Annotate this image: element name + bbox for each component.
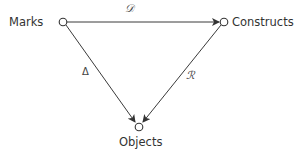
node-label-constructs: Constructs [232, 16, 294, 28]
edge-label-delta: Δ [82, 66, 89, 77]
edge-label-r: ℛ [186, 70, 195, 81]
edge-marks-objects [66, 25, 135, 122]
node-marks-circle [59, 18, 67, 26]
edge-label-d: 𝒟 [125, 3, 134, 14]
node-objects-circle [135, 123, 143, 131]
edge-constructs-objects [143, 25, 221, 122]
node-label-objects: Objects [119, 136, 162, 148]
node-constructs-circle [220, 18, 228, 26]
node-label-marks: Marks [9, 16, 43, 28]
